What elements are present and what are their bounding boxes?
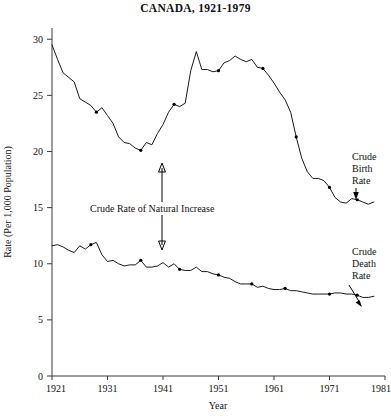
x-tick-label: 1961 <box>264 383 284 394</box>
data-point-marker <box>328 186 331 189</box>
data-point-marker <box>178 268 181 271</box>
data-point-marker <box>95 111 98 114</box>
data-point-marker <box>139 259 142 262</box>
y-tick-label: 5 <box>38 314 43 325</box>
data-point-marker <box>89 243 92 246</box>
y-axis-title: Rate (Per 1,000 Population) <box>2 146 14 258</box>
x-tick-label: 1941 <box>153 383 173 394</box>
data-series-group <box>52 45 374 298</box>
crude-death-rate-label-line2: Death <box>352 258 376 269</box>
y-tick-label: 0 <box>38 371 43 382</box>
data-point-marker <box>173 103 176 106</box>
natural-increase-annotation: Crude Rate of Natural Increase <box>88 163 236 250</box>
x-tick-label: 1921 <box>46 383 66 394</box>
data-point-marker <box>250 282 253 285</box>
line-chart-plot: 051015202530 192119311941195119611971198… <box>0 0 391 416</box>
data-point-marker <box>295 135 298 138</box>
natural-increase-label: Crude Rate of Natural Increase <box>90 203 215 214</box>
x-axis-title: Year <box>209 400 228 411</box>
chart-figure: CANADA, 1921-1979 051015202530 192119311… <box>0 0 391 416</box>
data-point-marker <box>217 69 220 72</box>
y-tick-label: 30 <box>33 34 43 45</box>
crude-death-rate-label-line1: Crude <box>352 246 377 257</box>
y-axis-ticks: 051015202530 <box>33 34 52 382</box>
crude-death-rate-label-line3: Rate <box>352 270 371 281</box>
data-point-marker <box>284 287 287 290</box>
data-point-marker <box>217 273 220 276</box>
series-line-crude-birth-rate <box>52 45 374 204</box>
x-tick-label: 1951 <box>209 383 229 394</box>
x-tick-label: 1971 <box>320 383 340 394</box>
data-point-marker <box>261 67 264 70</box>
y-tick-label: 15 <box>33 202 43 213</box>
data-point-marker <box>328 292 331 295</box>
data-point-marker <box>139 149 142 152</box>
x-tick-label: 1981 <box>371 383 391 394</box>
series-line-crude-death-rate <box>52 242 374 297</box>
y-tick-label: 10 <box>33 258 43 269</box>
data-point-markers <box>89 67 359 297</box>
x-tick-label: 1931 <box>98 383 118 394</box>
crude-birth-rate-label-line2: Birth <box>352 163 373 174</box>
y-tick-label: 20 <box>33 146 43 157</box>
crude-birth-rate-annotation: Crude Birth Rate <box>352 151 377 200</box>
x-axis-ticks: 1921193119411951196119711981 <box>46 376 391 394</box>
crude-birth-rate-label-line3: Rate <box>352 175 371 186</box>
y-tick-label: 25 <box>33 90 43 101</box>
crude-death-rate-arrowhead <box>356 300 362 307</box>
crude-birth-rate-label-line1: Crude <box>352 151 377 162</box>
